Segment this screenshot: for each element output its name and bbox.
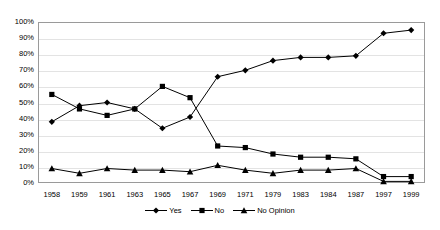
y-axis-tick-label: 0% [0, 179, 34, 187]
gridline [39, 55, 424, 56]
diamond-marker-icon [145, 206, 167, 215]
y-axis-tick-label: 20% [0, 147, 34, 155]
gridline [39, 104, 424, 105]
square-marker-icon [191, 206, 213, 215]
gridline [39, 136, 424, 137]
data-point-marker [199, 208, 204, 213]
plot-area [38, 22, 425, 183]
y-axis-tick-label: 70% [0, 66, 34, 74]
legend-label: No [215, 206, 225, 215]
y-axis-tick-label: 50% [0, 99, 34, 107]
y-axis-labels: 100%90%80%70%60%50%40%30%20%10%0% [0, 0, 36, 230]
gridline [39, 120, 424, 121]
y-axis-tick-label: 30% [0, 131, 34, 139]
legend-item-yes[interactable]: Yes [145, 206, 181, 215]
data-point-marker [153, 207, 159, 213]
y-axis-tick-label: 80% [0, 50, 34, 58]
y-axis-tick-label: 60% [0, 82, 34, 90]
chart-container: 100%90%80%70%60%50%40%30%20%10%0% 195819… [0, 0, 440, 230]
gridline [39, 168, 424, 169]
gridline [39, 39, 424, 40]
legend-label: No Opinion [257, 206, 295, 215]
y-axis-tick-label: 10% [0, 163, 34, 171]
legend-item-no[interactable]: No [191, 206, 225, 215]
y-axis-tick-label: 90% [0, 34, 34, 42]
gridline [39, 152, 424, 153]
legend-label: Yes [169, 206, 181, 215]
gridline [39, 87, 424, 88]
gridline [39, 71, 424, 72]
triangle-marker-icon [233, 206, 255, 215]
x-axis-tick-label: 1999 [391, 190, 431, 199]
y-axis-tick-label: 100% [0, 18, 34, 26]
y-axis-tick-label: 40% [0, 115, 34, 123]
chart-legend: YesNoNo Opinion [0, 206, 440, 215]
legend-item-no-opinion[interactable]: No Opinion [233, 206, 295, 215]
